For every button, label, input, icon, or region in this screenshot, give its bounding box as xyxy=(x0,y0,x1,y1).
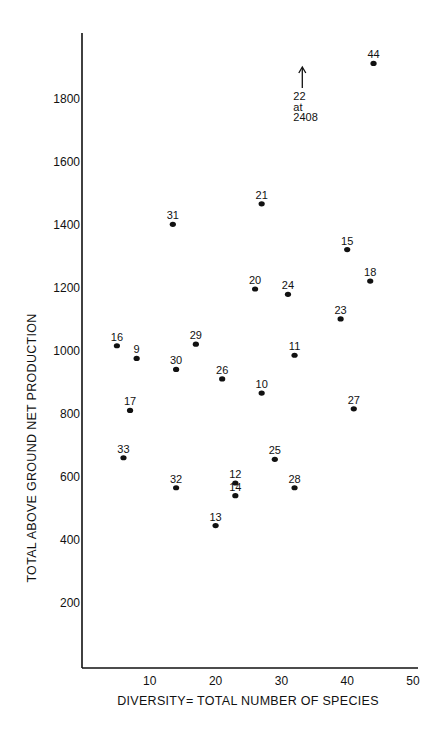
x-tick-label: 10 xyxy=(143,674,157,688)
y-tick-label: 600 xyxy=(60,470,80,484)
data-point: 24 xyxy=(282,279,294,297)
axes xyxy=(82,33,418,668)
data-point: 28 xyxy=(288,473,300,491)
point-label: 18 xyxy=(364,266,376,278)
y-tick-label: 1400 xyxy=(53,218,80,232)
point-label: 24 xyxy=(282,279,294,291)
data-point: 25 xyxy=(269,444,281,462)
point-label: 9 xyxy=(134,343,140,355)
x-tick-label: 50 xyxy=(406,674,420,688)
annotation-text: 2408 xyxy=(293,111,317,123)
y-tick-label: 200 xyxy=(60,596,80,610)
data-point: 17 xyxy=(124,395,136,413)
point-label: 30 xyxy=(170,354,182,366)
point-label: 13 xyxy=(209,511,221,523)
off-scale-annotation: 22at2408 xyxy=(293,67,317,123)
data-point: 16 xyxy=(111,331,123,349)
data-points: 4431211518202423162991130261017273325123… xyxy=(111,48,380,528)
data-point: 29 xyxy=(190,329,202,347)
point-label: 33 xyxy=(117,443,129,455)
point-label: 15 xyxy=(341,235,353,247)
data-point: 32 xyxy=(170,473,182,491)
x-tick-label: 20 xyxy=(209,674,223,688)
point-label: 23 xyxy=(334,304,346,316)
point-marker xyxy=(232,493,238,498)
x-tick-label: 30 xyxy=(275,674,289,688)
data-point: 21 xyxy=(256,189,268,207)
point-label: 26 xyxy=(216,364,228,376)
data-point: 14 xyxy=(229,481,241,499)
point-marker xyxy=(338,316,344,321)
point-marker xyxy=(259,201,265,206)
x-axis-label: DIVERSITY= TOTAL NUMBER OF SPECIES xyxy=(117,694,379,708)
point-marker xyxy=(272,457,278,462)
x-tick-label: 40 xyxy=(341,674,355,688)
annotations: 22at2408 xyxy=(293,67,317,123)
data-point: 9 xyxy=(134,343,140,361)
data-point: 31 xyxy=(167,209,179,227)
data-point: 23 xyxy=(334,304,346,322)
y-tick-label: 1600 xyxy=(53,155,80,169)
point-marker xyxy=(344,247,350,252)
data-point: 44 xyxy=(367,48,379,66)
data-point: 11 xyxy=(289,340,300,358)
point-marker xyxy=(173,367,179,372)
data-point: 20 xyxy=(249,274,261,292)
point-marker xyxy=(252,286,258,291)
data-point: 27 xyxy=(348,394,360,412)
point-label: 27 xyxy=(348,394,360,406)
point-label: 31 xyxy=(167,209,179,221)
point-marker xyxy=(367,278,373,283)
point-marker xyxy=(285,292,291,297)
point-marker xyxy=(351,406,357,411)
point-label: 12 xyxy=(229,468,241,480)
point-label: 14 xyxy=(229,481,241,493)
point-label: 10 xyxy=(256,378,268,390)
point-label: 20 xyxy=(249,274,261,286)
point-label: 32 xyxy=(170,473,182,485)
scatter-chart: 1020304050 20040060080010001200140016001… xyxy=(0,0,446,732)
data-point: 10 xyxy=(256,378,268,396)
y-tick-label: 1200 xyxy=(53,281,80,295)
data-point: 26 xyxy=(216,364,228,382)
point-label: 21 xyxy=(256,189,268,201)
point-marker xyxy=(259,390,265,395)
point-marker xyxy=(219,376,225,381)
point-label: 29 xyxy=(190,329,202,341)
data-point: 13 xyxy=(209,511,221,529)
y-tick-label: 1000 xyxy=(53,344,80,358)
data-point: 30 xyxy=(170,354,182,372)
y-tick-label: 1800 xyxy=(53,92,80,106)
point-marker xyxy=(193,342,199,347)
point-marker xyxy=(127,408,133,413)
point-marker xyxy=(291,353,297,358)
point-label: 16 xyxy=(111,331,123,343)
y-tick-label: 400 xyxy=(60,533,80,547)
y-tick-label: 800 xyxy=(60,407,80,421)
point-label: 11 xyxy=(289,340,300,352)
point-label: 28 xyxy=(288,473,300,485)
point-marker xyxy=(114,343,120,348)
point-marker xyxy=(134,356,140,361)
point-marker xyxy=(173,485,179,490)
point-marker xyxy=(370,61,376,66)
point-label: 25 xyxy=(269,444,281,456)
point-label: 17 xyxy=(124,395,136,407)
data-point: 18 xyxy=(364,266,376,284)
y-tick-labels: 20040060080010001200140016001800 xyxy=(53,92,80,611)
x-tick-labels: 1020304050 xyxy=(143,674,420,688)
data-point: 15 xyxy=(341,235,353,253)
point-label: 44 xyxy=(367,48,379,60)
y-axis-label: TOTAL ABOVE GROUND NET PRODUCTION xyxy=(25,313,39,582)
point-marker xyxy=(170,222,176,227)
data-point: 33 xyxy=(117,443,129,461)
point-marker xyxy=(291,485,297,490)
point-marker xyxy=(213,523,219,528)
point-marker xyxy=(120,455,126,460)
